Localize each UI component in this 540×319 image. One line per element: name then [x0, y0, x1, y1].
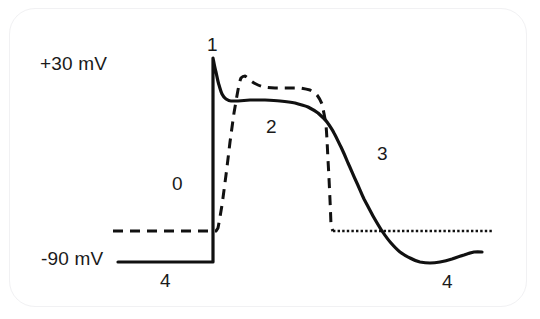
- action-potential-plot: [0, 0, 540, 319]
- upper-voltage-label: +30 mV: [40, 53, 107, 75]
- phase-1-label: 1: [207, 34, 218, 56]
- cardiac-action-potential-figure: +30 mV -90 mV 0 1 2 3 4 4: [0, 0, 540, 319]
- phase-0-label: 0: [172, 173, 183, 195]
- lower-voltage-label: -90 mV: [41, 248, 103, 270]
- phase-3-label: 3: [377, 143, 388, 165]
- phase-4-left-label: 4: [160, 270, 171, 292]
- phase-4-right-label: 4: [442, 271, 453, 293]
- phase-2-label: 2: [266, 116, 277, 138]
- dashed-action-potential-trace: [113, 76, 333, 231]
